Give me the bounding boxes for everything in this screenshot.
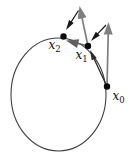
figure-canvas: x0x1x2: [0, 0, 133, 157]
arrowhead-tangent-at-x1: [78, 6, 87, 19]
arrowhead-retraction-to-x2: [66, 20, 74, 30]
arrow-shaft-tangent-at-x1: [82, 17, 88, 46]
point-label-x2: x2: [49, 38, 61, 54]
arrowhead-step-x1-to-x2: [66, 39, 79, 48]
point-label-x1: x1: [76, 48, 88, 64]
point-x1: [85, 43, 91, 49]
arrowhead-tangent-at-x0: [104, 22, 113, 35]
point-x0: [104, 83, 110, 89]
circle-iteration-figure: x0x1x2: [0, 0, 133, 157]
arrow-shaft-retraction-to-x2: [71, 11, 79, 23]
arrow-shaft-step-x0-to-x1: [94, 58, 107, 86]
point-x2: [60, 33, 66, 39]
point-label-x0: x0: [113, 89, 125, 105]
arrow-shaft-tangent-at-x0: [107, 33, 108, 86]
